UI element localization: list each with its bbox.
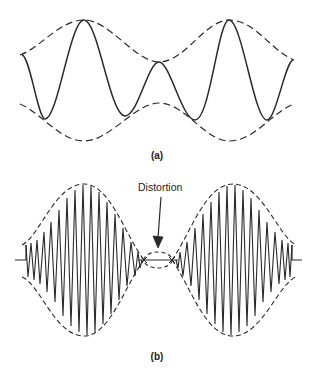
panel-a-label: (a) <box>147 150 167 161</box>
distortion-annotation: Distortion <box>138 181 182 193</box>
right-baseline <box>292 245 302 260</box>
left-baseline <box>15 245 26 260</box>
panel-a-lower-envelope <box>20 103 294 141</box>
panel-a-upper-envelope <box>20 20 294 62</box>
distortion-arrow-head <box>153 236 163 248</box>
panel-a <box>20 20 294 141</box>
panel-b <box>15 184 302 336</box>
distortion-arrow-shaft <box>158 197 161 238</box>
panel-a-waveform <box>22 20 293 120</box>
panel-b-label: (b) <box>147 351 167 362</box>
panel-b-waveform-right <box>176 185 292 335</box>
panel-b-waveform-left <box>26 185 142 335</box>
panel-b-lower-envelope-right <box>172 260 296 336</box>
